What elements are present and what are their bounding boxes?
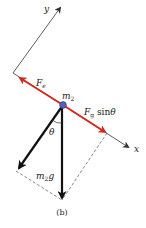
mass-dot	[60, 102, 67, 109]
dashed-line-right	[62, 133, 107, 200]
x-axis-label: x	[134, 144, 139, 154]
theta-label: θ	[49, 127, 55, 137]
y-axis	[13, 8, 60, 73]
weight-label: m2g	[36, 171, 54, 182]
y-axis-label: y	[43, 4, 50, 14]
force-diagram: y x θ Fe Fg sinθ m2 m2g (b)	[0, 0, 146, 228]
mass-label: m2	[62, 91, 75, 102]
perpendicular-component-arrow	[19, 105, 63, 168]
gravity-component-label: Fg sinθ	[83, 107, 116, 119]
electric-force-label: Fe	[35, 78, 46, 89]
figure-caption: (b)	[56, 208, 67, 217]
